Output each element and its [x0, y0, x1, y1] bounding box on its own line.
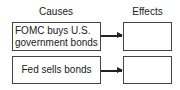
arrow-2-icon	[101, 70, 122, 72]
cause-1-line-1: FOMC buys U.S.	[15, 25, 98, 37]
causes-header: Causes	[12, 6, 100, 18]
cause-1-line-2: government bonds	[15, 37, 98, 49]
cause-box-2: Fed sells bonds	[12, 56, 101, 84]
arrow-1-icon	[101, 35, 122, 37]
effect-box-1[interactable]	[123, 22, 172, 51]
cause-2-text: Fed sells bonds	[21, 64, 91, 76]
cause-box-1: FOMC buys U.S. government bonds	[12, 22, 101, 51]
effects-header: Effects	[123, 6, 172, 18]
effect-box-2[interactable]	[123, 56, 172, 84]
